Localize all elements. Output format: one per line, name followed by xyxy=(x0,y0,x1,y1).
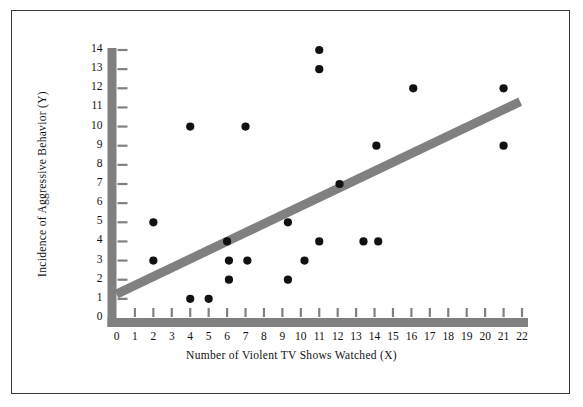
x-axis-spine xyxy=(108,318,529,327)
data-point xyxy=(186,295,194,303)
x-tick-label: 5 xyxy=(199,330,219,342)
x-tick-label: 20 xyxy=(475,330,495,342)
data-point xyxy=(300,256,308,264)
x-tick-label: 18 xyxy=(438,330,458,342)
y-tick-label: 6 xyxy=(83,195,103,207)
data-point xyxy=(149,218,157,226)
data-point xyxy=(284,218,292,226)
y-tick-label: 12 xyxy=(83,80,103,92)
x-tick-label: 21 xyxy=(494,330,514,342)
x-tick-label: 2 xyxy=(143,330,163,342)
scatter-plot-page: Number of Violent TV Shows Watched (X) I… xyxy=(0,0,583,407)
data-point xyxy=(374,237,382,245)
x-tick-label: 1 xyxy=(125,330,145,342)
y-axis-spine xyxy=(108,48,117,327)
x-tick-label: 10 xyxy=(291,330,311,342)
trend-line xyxy=(117,102,521,294)
data-point xyxy=(149,256,157,264)
x-tick-label: 17 xyxy=(420,330,440,342)
data-point xyxy=(315,65,323,73)
data-point xyxy=(186,122,194,130)
data-point xyxy=(499,84,507,92)
data-point xyxy=(499,142,507,150)
data-point xyxy=(241,122,249,130)
y-tick-label: 11 xyxy=(83,99,103,111)
data-point xyxy=(315,46,323,54)
y-tick-label: 14 xyxy=(83,42,103,54)
x-tick-label: 0 xyxy=(107,330,127,342)
plot-figure: Number of Violent TV Shows Watched (X) I… xyxy=(0,0,583,407)
x-tick-label: 8 xyxy=(254,330,274,342)
x-tick-label: 19 xyxy=(457,330,477,342)
x-tick-label: 9 xyxy=(272,330,292,342)
y-axis-title: Incidence of Aggressive Behavior (Y) xyxy=(36,64,48,304)
y-tick-label: 1 xyxy=(83,291,103,303)
y-tick-label: 7 xyxy=(83,176,103,188)
x-axis-title: Number of Violent TV Shows Watched (X) xyxy=(0,349,583,361)
y-tick-label: 10 xyxy=(83,119,103,131)
data-point xyxy=(243,256,251,264)
data-point xyxy=(359,237,367,245)
y-tick-label: 8 xyxy=(83,157,103,169)
x-tick-label: 14 xyxy=(365,330,385,342)
y-tick-label: 0 xyxy=(83,310,103,322)
y-tick-label: 13 xyxy=(83,61,103,73)
x-tick-label: 13 xyxy=(346,330,366,342)
x-tick-label: 11 xyxy=(309,330,329,342)
y-tick-label: 9 xyxy=(83,138,103,150)
x-tick-label: 22 xyxy=(512,330,532,342)
data-point xyxy=(409,84,417,92)
x-tick-label: 15 xyxy=(383,330,403,342)
data-point xyxy=(225,256,233,264)
x-tick-label: 4 xyxy=(180,330,200,342)
data-point xyxy=(223,237,231,245)
data-point xyxy=(335,180,343,188)
x-tick-label: 16 xyxy=(401,330,421,342)
y-tick-label: 2 xyxy=(83,272,103,284)
y-tick-label: 4 xyxy=(83,233,103,245)
data-point xyxy=(205,295,213,303)
x-tick-label: 12 xyxy=(328,330,348,342)
data-point xyxy=(284,276,292,284)
y-tick-label: 5 xyxy=(83,214,103,226)
y-tick-label: 3 xyxy=(83,253,103,265)
data-point xyxy=(372,142,380,150)
x-tick-label: 7 xyxy=(236,330,256,342)
x-tick-label: 3 xyxy=(162,330,182,342)
data-point xyxy=(315,237,323,245)
x-tick-label: 6 xyxy=(217,330,237,342)
data-point xyxy=(225,276,233,284)
